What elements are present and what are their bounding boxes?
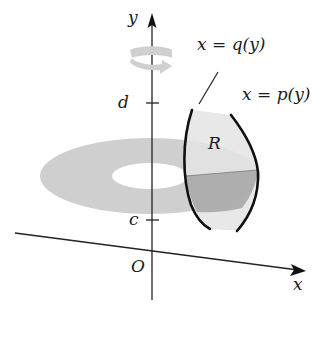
curve-p-label: x = p(y) [242,86,310,103]
region-r-label: R [208,135,221,152]
rotation-arrow-icon [130,46,172,74]
tick-label-d: d [118,94,129,111]
x-axis-label: x [293,276,303,293]
q-leader-line [199,72,218,104]
y-axis-label: y [128,9,138,26]
tick-label-c: c [129,211,139,228]
curve-q-label: x = q(y) [197,36,265,53]
diagram-canvas [0,0,314,338]
solid-of-revolution-figure: y d c O x x = q(y) x = p(y) R [0,0,314,338]
x-axis [15,233,298,270]
origin-label: O [131,258,145,275]
